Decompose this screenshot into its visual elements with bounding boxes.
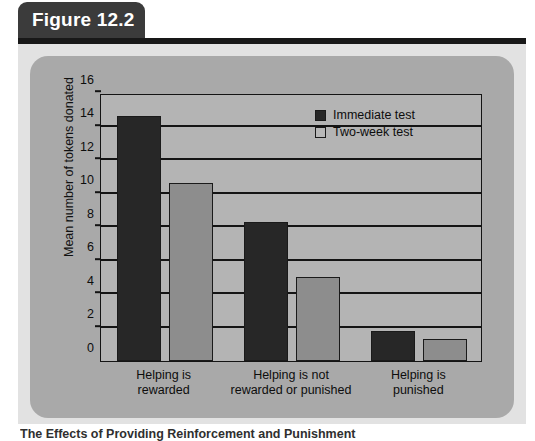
legend-item: Immediate test [315,108,415,122]
legend-swatch-immediate [315,110,326,121]
bar-twoweek-1 [169,183,213,361]
y-axis-tick-label: 6 [87,240,94,254]
category-label-line: Helping is [343,368,493,383]
y-axis-title: Mean number of tokens donated [62,62,76,272]
y-axis-tick-label: 0 [87,341,94,355]
category-label-line: punished [343,383,493,398]
plot-area: 0246810121416 [100,94,482,362]
bar-immediate-1 [117,116,161,361]
bar-immediate-2 [244,222,288,361]
y-axis-tick-mark [95,292,101,294]
figure-body: Mean number of tokens donated 0246810121… [18,44,526,424]
y-axis-tick-mark [95,325,101,327]
y-axis-tick-mark [95,124,101,126]
legend-label: Two-week test [333,125,413,139]
legend-swatch-twoweek [315,127,326,138]
y-axis-tick-label: 2 [87,307,94,321]
y-axis-tick-label: 12 [80,140,94,154]
y-axis-tick-label: 10 [80,173,94,187]
y-axis-tick-mark [95,191,101,193]
figure-caption: The Effects of Providing Reinforcement a… [20,427,520,441]
legend-item: Two-week test [315,125,415,139]
figure-title-tab: Figure 12.2 [18,2,145,38]
y-axis-tick-label: 16 [80,73,94,87]
y-axis-tick-mark [95,258,101,260]
y-axis-tick-mark [95,225,101,227]
legend-label: Immediate test [333,108,415,122]
bar-twoweek-3 [423,339,467,361]
y-axis-tick-label: 14 [80,106,94,120]
chart-legend: Immediate testTwo-week test [315,108,415,142]
figure-number-label: Figure 12.2 [32,9,135,31]
bar-twoweek-2 [296,277,340,361]
y-axis-tick-mark [95,158,101,160]
y-axis-tick-label: 4 [87,274,94,288]
y-axis-tick-mark [95,91,101,93]
bar-immediate-3 [371,331,415,361]
chart-panel: Mean number of tokens donated 0246810121… [30,56,514,418]
category-label-3: Helping ispunished [343,368,493,398]
y-axis-tick-label: 8 [87,207,94,221]
